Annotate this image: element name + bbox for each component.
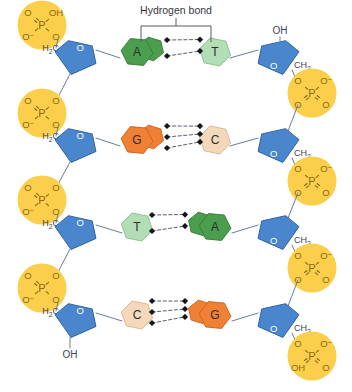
phosphate-oxygen-br: O <box>52 31 59 42</box>
hydrogen-bond-endpoint <box>182 306 188 312</box>
base-letter-label: G <box>132 133 141 147</box>
hydrogen-bond-dashed <box>152 317 185 323</box>
sugar-ring-oxygen-label: O <box>77 217 84 228</box>
deoxyribose-sugar-left-1: O <box>55 41 96 75</box>
phosphate-oxygen-tl: O <box>24 95 31 106</box>
hydrogen-bonds-layer <box>149 36 203 326</box>
hydrogen-bond-dashed <box>152 226 185 231</box>
hydrogen-bond-dashed <box>167 134 200 137</box>
hydrogen-bond-endpoint <box>182 223 188 229</box>
hydrogen-bond-annotation-label: Hydrogen bond <box>140 4 212 16</box>
phosphate-oxygen-tr: OH <box>49 7 63 18</box>
sugar-ring-pentagon <box>55 304 96 338</box>
phosphorus-atom-label: P <box>308 175 315 187</box>
base-pair-region: ATGCTACG <box>121 37 231 329</box>
phosphate-oxygen-tl: O <box>294 250 301 261</box>
hydrogen-bond-endpoint <box>164 134 170 140</box>
hydrogen-bond-dashed <box>167 142 200 148</box>
dna-structure-svg: OOHO–OPH2COOOO–OPH2COOOO–OPH2COOOO–OPH2C… <box>0 0 352 392</box>
base-guanine-row4: G <box>189 300 231 328</box>
phosphate-oxygen-br: O <box>322 187 329 198</box>
sugar-phosphate-backbones: OOHO–OPH2COOOO–OPH2COOOO–OPH2COOOO–OPH2C… <box>18 1 337 381</box>
hydrogen-bond-dashed <box>152 309 185 312</box>
base-adenine-row1: A <box>121 37 163 65</box>
terminal-hydroxyl-left: OH <box>63 349 78 360</box>
annotation-layer: Hydrogen bond <box>140 4 212 42</box>
hydrogen-bond-endpoint <box>164 37 170 43</box>
phosphorus-atom-label: P <box>308 262 315 274</box>
phosphate-oxygen-tl: O <box>294 75 301 86</box>
phosphate-oxygen-tl: O <box>24 7 31 18</box>
backbone-bond-right <box>288 193 298 218</box>
backbone-bond-right <box>288 105 298 131</box>
glycosidic-bond-left <box>96 313 122 321</box>
deoxyribose-sugar-left-2: O <box>55 129 96 163</box>
phosphorus-atom-label: P <box>38 19 45 31</box>
sugar-ring-oxygen-label: O <box>270 323 277 334</box>
phosphate-oxygen-tl: O <box>294 163 301 174</box>
hydrogen-bond-endpoint <box>182 211 188 217</box>
base-thymine-row3: T <box>121 213 152 241</box>
deoxyribose-sugar-right-1: O <box>258 41 299 75</box>
base-letter-label: C <box>211 133 220 147</box>
hydrogen-bond-endpoint <box>164 145 170 151</box>
sugar-ring-oxygen-label: O <box>77 305 84 316</box>
hydrogen-bond-endpoint <box>197 123 203 129</box>
hydrogen-bond-endpoint <box>149 212 155 218</box>
phosphate-oxygen-tr: O <box>52 270 59 281</box>
phosphate-group-right-2: OO–OOP <box>288 157 337 206</box>
phosphate-oxygen-bl: OH <box>291 362 305 373</box>
phosphate-oxygen-tl: O <box>24 270 31 281</box>
phosphate-group-right-4: OO–OHOP <box>288 332 337 381</box>
phosphate-group-right-1: OO–OOP <box>288 69 337 118</box>
deoxyribose-sugar-left-3: O <box>55 216 96 250</box>
base-letter-label: A <box>211 220 219 234</box>
sugar-ring-oxygen-label: O <box>270 148 277 159</box>
base-thymine-row1: T <box>199 38 230 66</box>
glycosidic-bond-right <box>232 313 258 321</box>
hydrogen-bond-set-row3 <box>149 211 188 234</box>
sugar-ring-pentagon <box>258 41 299 75</box>
phosphate-oxygen-br: O <box>322 274 329 285</box>
base-letter-label: G <box>210 308 219 322</box>
phosphate-oxygen-tl: O <box>24 182 31 193</box>
sugar-ring-pentagon <box>258 304 299 338</box>
phosphate-oxygen-tr: O <box>52 95 59 106</box>
base-adenine-row3: A <box>189 212 231 240</box>
backbone-bond-right <box>288 280 298 306</box>
hydrogen-bond-endpoint <box>164 53 170 59</box>
phosphorus-atom-label: P <box>38 107 45 119</box>
sugar-ring-pentagon <box>55 41 96 75</box>
base-letter-label: A <box>133 45 141 59</box>
base-letter-label: T <box>211 45 219 59</box>
phosphorus-atom-label: P <box>38 282 45 294</box>
sugar-ring-oxygen-label: O <box>270 60 277 71</box>
phosphate-oxygen-br: O <box>322 362 329 373</box>
phosphate-oxygen-br: O <box>52 119 59 130</box>
dna-diagram: OOHO–OPH2COOOO–OPH2COOOO–OPH2COOOO–OPH2C… <box>0 0 352 392</box>
phosphate-oxygen-br: O <box>52 294 59 305</box>
base-letter-label: T <box>133 220 141 234</box>
phosphate-oxygen-br: O <box>52 206 59 217</box>
phosphate-group-right-3: OO–OOP <box>288 244 337 293</box>
base-cytosine-row4: C <box>121 301 152 329</box>
sugar-ring-pentagon <box>258 216 299 250</box>
hydrogen-bond-endpoint <box>182 298 188 304</box>
glycosidic-bond-left <box>96 138 120 146</box>
sugar-ring-oxygen-label: O <box>77 130 84 141</box>
glycosidic-bond-left <box>96 50 120 58</box>
hydrogen-bond-endpoint <box>149 298 155 304</box>
base-letter-label: C <box>133 308 142 322</box>
sugar-ring-pentagon <box>258 129 299 163</box>
phosphate-oxygen-br: O <box>322 99 329 110</box>
glycosidic-bond-left <box>96 225 122 233</box>
glycosidic-bond-right <box>230 50 258 58</box>
glycosidic-bond-right <box>232 225 258 233</box>
phosphorus-atom-label: P <box>38 194 45 206</box>
deoxyribose-sugar-right-2: O <box>258 129 299 163</box>
terminal-hydroxyl-right: OH <box>273 25 288 36</box>
phosphate-oxygen-tr: O <box>52 182 59 193</box>
base-cytosine-row2: C <box>199 126 230 154</box>
hydrogen-bond-set-row2 <box>164 123 203 151</box>
phosphorus-atom-label: P <box>308 87 315 99</box>
